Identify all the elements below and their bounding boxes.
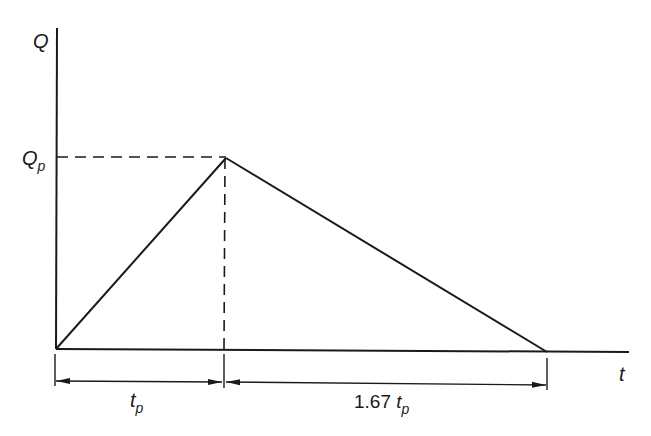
recession-time-label: 1.67 tp [354,391,410,417]
y-axis [56,28,57,349]
recession-limb [226,158,547,352]
rising-limb [56,158,226,349]
y-axis-label: Q [33,30,49,52]
hydrograph-diagram: Q Qp tp 1.67 tp t [0,0,651,436]
recession-time-arrow [226,382,546,385]
x-axis-label: t [619,363,626,385]
rise-time-label: tp [130,389,144,416]
peak-vertical-guide [224,158,225,350]
rise-time-arrow [56,381,222,382]
peak-flow-label: Qp [22,147,46,174]
